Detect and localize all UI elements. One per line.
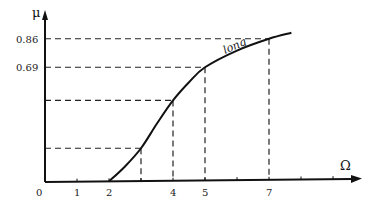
axes bbox=[42, 10, 362, 183]
x-tick-label: 7 bbox=[266, 187, 272, 198]
x-axis bbox=[45, 179, 352, 182]
x-tick-label: 2 bbox=[106, 187, 112, 198]
y-axis-arrow-icon bbox=[42, 10, 48, 20]
y-tick-label: 0.86 bbox=[16, 34, 38, 45]
x-tick-label: 5 bbox=[202, 187, 208, 198]
x-axis-arrow-icon bbox=[351, 175, 362, 183]
tick-labels: 0.690.86012457 bbox=[16, 34, 272, 198]
y-axis-title: μ bbox=[32, 5, 40, 20]
x-axis-title: Ω bbox=[340, 158, 351, 173]
x-tick-label: 1 bbox=[74, 187, 80, 198]
chart: 0.690.86012457 μ Ω long bbox=[0, 0, 375, 209]
reference-lines bbox=[45, 39, 269, 181]
x-tick-label: 4 bbox=[170, 187, 176, 198]
x-tick-label: 0 bbox=[36, 187, 42, 198]
y-tick-label: 0.69 bbox=[16, 62, 38, 73]
series-curve-long bbox=[109, 33, 291, 182]
